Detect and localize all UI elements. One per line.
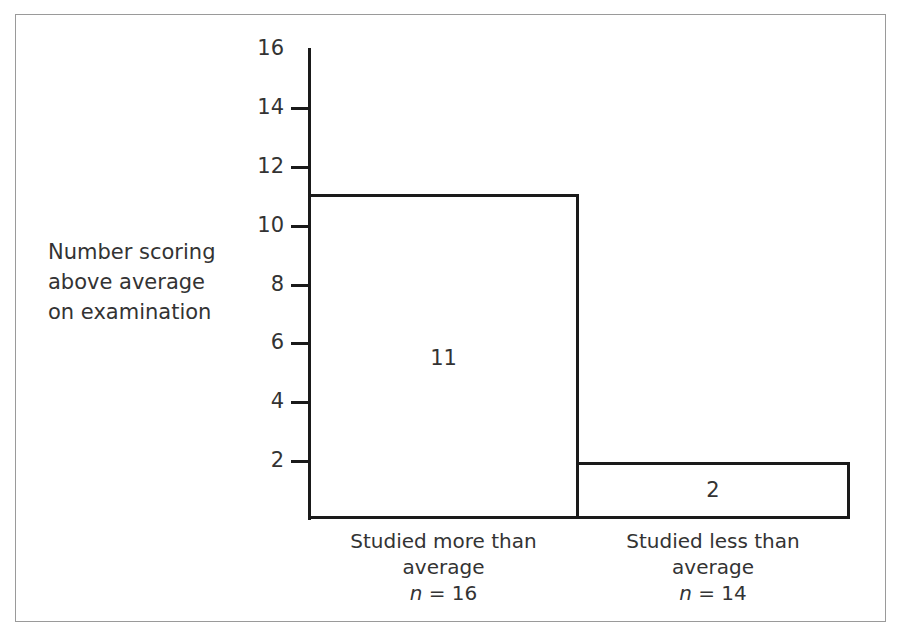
y-axis-title: Number scoring above average on examinat… [48, 237, 248, 327]
x-category-note-1: n = 16 [308, 580, 579, 606]
x-category-label-1-line-2: average [308, 554, 579, 580]
bar-chart-plot-area: 16 14 12 10 8 6 4 2 Number scoring above… [0, 0, 902, 636]
y-tick-label-16: 16 [240, 38, 284, 59]
y-tick-label-10: 10 [240, 215, 284, 236]
n-symbol-1: n [410, 581, 423, 605]
y-tick-label-4: 4 [240, 391, 284, 412]
x-category-note-2: n = 14 [576, 580, 850, 606]
figure: 16 14 12 10 8 6 4 2 Number scoring above… [0, 0, 902, 636]
y-axis-title-line-3: on examination [48, 297, 248, 327]
y-tick-mark-8 [291, 284, 308, 287]
x-category-label-2-line-2: average [576, 554, 850, 580]
y-tick-mark-2 [291, 460, 308, 463]
n-value-2: = 14 [698, 581, 747, 605]
bar-value-label-1: 11 [308, 348, 579, 369]
y-tick-label-14: 14 [240, 97, 284, 118]
y-axis-title-line-2: above average [48, 267, 248, 297]
y-tick-label-2: 2 [240, 450, 284, 471]
y-tick-label-6: 6 [240, 332, 284, 353]
x-category-label-2: Studied less than average n = 14 [576, 528, 850, 606]
x-category-label-1: Studied more than average n = 16 [308, 528, 579, 606]
bar-value-label-2: 2 [576, 480, 850, 501]
y-tick-mark-4 [291, 401, 308, 404]
n-value-1: = 16 [429, 581, 478, 605]
x-category-label-1-line-1: Studied more than [308, 528, 579, 554]
y-tick-label-12: 12 [240, 156, 284, 177]
y-tick-mark-6 [291, 342, 308, 345]
x-category-label-2-line-1: Studied less than [576, 528, 850, 554]
n-symbol-2: n [679, 581, 692, 605]
y-tick-mark-12 [291, 166, 308, 169]
y-tick-mark-14 [291, 107, 308, 110]
y-axis-title-line-1: Number scoring [48, 237, 248, 267]
y-tick-mark-10 [291, 225, 308, 228]
